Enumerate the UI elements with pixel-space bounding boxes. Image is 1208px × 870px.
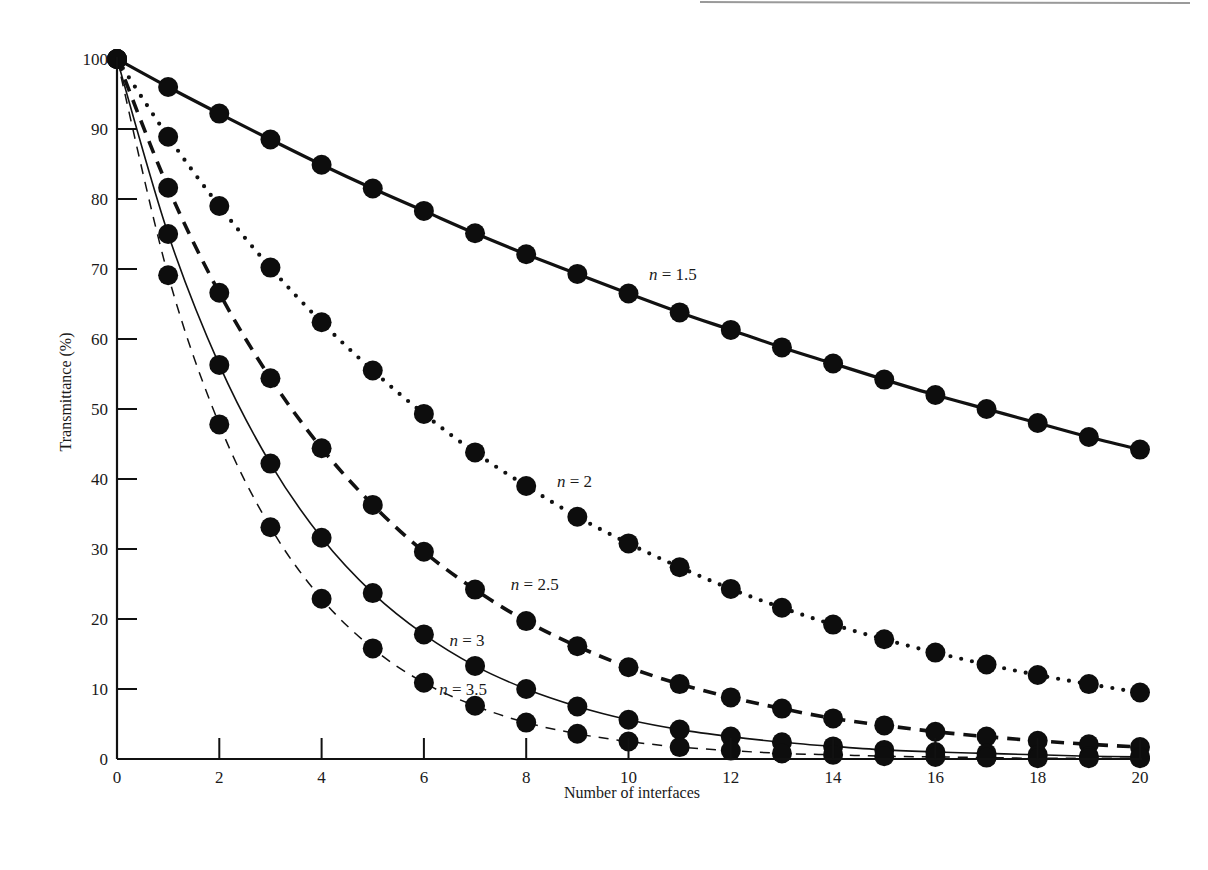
- data-point-marker: [414, 201, 434, 221]
- data-point-marker: [567, 724, 587, 744]
- data-point-marker: [260, 130, 280, 150]
- x-tick-label: 20: [1132, 768, 1149, 787]
- curve-label-variable: n: [449, 631, 458, 650]
- data-point-marker: [209, 283, 229, 303]
- data-point-marker: [670, 557, 690, 577]
- data-point-marker: [209, 104, 229, 124]
- data-point-marker: [516, 679, 536, 699]
- data-point-marker: [209, 355, 229, 375]
- data-point-marker: [977, 399, 997, 419]
- data-point-marker: [1079, 674, 1099, 694]
- curve-label-variable: n: [439, 680, 448, 699]
- data-point-marker: [414, 542, 434, 562]
- data-point-marker: [721, 687, 741, 707]
- data-point-marker: [772, 699, 792, 719]
- curve-label: n = 2: [557, 472, 592, 491]
- data-point-marker: [670, 302, 690, 322]
- data-point-marker: [721, 579, 741, 599]
- curve-label-value: = 2: [565, 472, 592, 491]
- y-tick-label: 20: [91, 610, 108, 629]
- data-point-marker: [158, 224, 178, 244]
- data-point-marker: [363, 583, 383, 603]
- data-point-marker: [414, 673, 434, 693]
- curve-label: n = 1.5: [649, 265, 697, 284]
- data-point-marker: [567, 264, 587, 284]
- y-tick-label: 0: [100, 750, 109, 769]
- data-point-marker: [465, 656, 485, 676]
- y-tick-label: 10: [91, 680, 108, 699]
- data-point-marker: [670, 720, 690, 740]
- data-point-marker: [312, 312, 332, 332]
- data-point-marker: [619, 657, 639, 677]
- data-point-marker: [260, 454, 280, 474]
- series-1-5: [107, 49, 1150, 460]
- data-point-marker: [312, 589, 332, 609]
- data-point-marker: [465, 223, 485, 243]
- data-point-marker: [772, 743, 792, 763]
- x-tick-label: 4: [317, 768, 326, 787]
- curve-label-variable: n: [557, 472, 566, 491]
- data-point-marker: [158, 77, 178, 97]
- y-tick-label: 70: [91, 260, 108, 279]
- curve-label: n = 3.5: [439, 680, 487, 699]
- y-tick-label: 40: [91, 470, 108, 489]
- data-point-marker: [209, 414, 229, 434]
- x-tick-label: 18: [1029, 768, 1046, 787]
- data-point-marker: [823, 708, 843, 728]
- data-point-marker: [925, 643, 945, 663]
- curve-label-variable: n: [511, 575, 519, 594]
- data-point-marker: [260, 258, 280, 278]
- transmittance-chart: 010203040506070809010002468101214161820 …: [0, 0, 1208, 870]
- data-point-marker: [1028, 413, 1048, 433]
- data-point-marker: [465, 442, 485, 462]
- data-point-marker: [823, 615, 843, 635]
- data-point-marker: [312, 155, 332, 175]
- data-point-marker: [158, 127, 178, 147]
- data-point-marker: [567, 636, 587, 656]
- x-tick-label: 14: [825, 768, 843, 787]
- data-point-marker: [363, 179, 383, 199]
- data-point-marker: [516, 611, 536, 631]
- x-tick-label: 12: [722, 768, 739, 787]
- x-tick-label: 2: [215, 768, 224, 787]
- data-point-marker: [209, 196, 229, 216]
- data-point-marker: [1130, 440, 1150, 460]
- curve-label-value: = 2.5: [519, 575, 558, 594]
- y-tick-label: 90: [91, 120, 108, 139]
- curve-label-value: = 1.5: [657, 265, 696, 284]
- data-point-marker: [1079, 427, 1099, 447]
- data-point-marker: [977, 655, 997, 675]
- data-point-marker: [567, 507, 587, 527]
- x-axis-title: Number of interfaces: [564, 784, 700, 801]
- data-point-marker: [363, 638, 383, 658]
- data-point-marker: [363, 361, 383, 381]
- data-point-marker: [874, 715, 894, 735]
- data-point-marker: [925, 385, 945, 405]
- curve-labels: n = 1.5n = 2n = 2.5n = 3n = 3.5: [439, 265, 697, 699]
- data-point-marker: [874, 629, 894, 649]
- data-point-marker: [465, 696, 485, 716]
- data-point-marker: [874, 370, 894, 390]
- y-tick-label: 50: [91, 400, 108, 419]
- data-point-marker: [619, 710, 639, 730]
- data-point-marker: [363, 495, 383, 515]
- x-tick-label: 16: [927, 768, 944, 787]
- page-edge-line: [700, 2, 1190, 3]
- curve-label: n = 2.5: [511, 575, 559, 594]
- data-point-marker: [977, 748, 997, 768]
- data-point-marker: [772, 337, 792, 357]
- y-axis-title: Transmittance (%): [57, 333, 75, 452]
- data-point-marker: [260, 517, 280, 537]
- data-point-marker: [312, 528, 332, 548]
- data-point-marker: [874, 746, 894, 766]
- data-point-marker: [619, 533, 639, 553]
- data-point-marker: [772, 598, 792, 618]
- data-point-marker: [312, 438, 332, 458]
- data-point-marker: [516, 476, 536, 496]
- data-point-marker: [1028, 665, 1048, 685]
- x-tick-label: 6: [420, 768, 429, 787]
- data-point-marker: [516, 713, 536, 733]
- data-point-marker: [414, 624, 434, 644]
- y-tick-label: 100: [83, 50, 109, 69]
- data-point-marker: [567, 697, 587, 717]
